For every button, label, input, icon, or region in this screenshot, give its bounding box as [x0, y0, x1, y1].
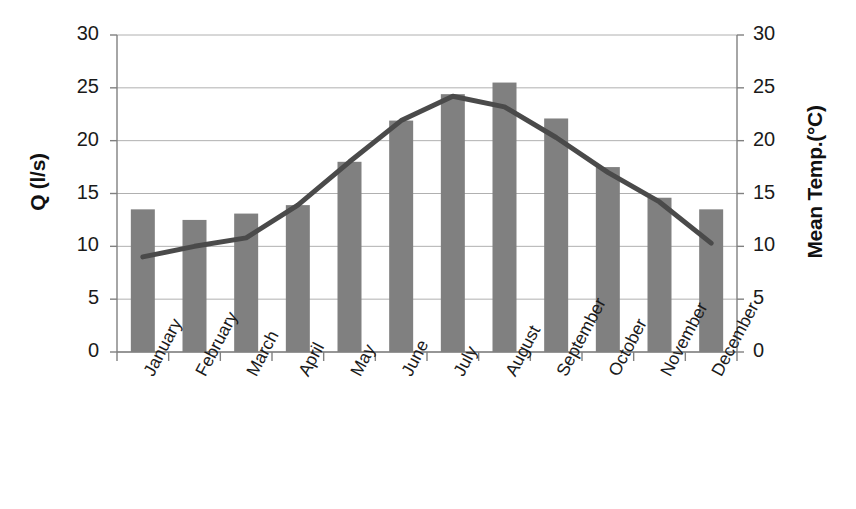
y-axis-left-tick-label: 20: [53, 128, 99, 151]
bar: [493, 83, 517, 352]
line-series: [143, 96, 711, 257]
y-axis-right-tick-label: 0: [753, 339, 799, 362]
chart-figure: Q (l/s) Mean Temp.(°C) 051015202530 0510…: [0, 0, 856, 509]
bar: [699, 209, 723, 352]
bar: [286, 205, 310, 352]
y-axis-left-tick-label: 5: [53, 286, 99, 309]
plot-area: [0, 0, 856, 509]
bar: [544, 118, 568, 352]
bar-series: [131, 83, 723, 352]
y-axis-right-tick-label: 30: [753, 22, 799, 45]
bar: [131, 209, 155, 352]
y-axis-left-tick-label: 15: [53, 181, 99, 204]
y-axis-left-tick-label: 25: [53, 75, 99, 98]
y-axis-left-tick-label: 30: [53, 22, 99, 45]
y-axis-right-tick-label: 20: [753, 128, 799, 151]
y-axis-right-tick-label: 10: [753, 233, 799, 256]
bar: [183, 220, 207, 352]
y-axis-right-tick-label: 15: [753, 181, 799, 204]
temperature-line: [143, 96, 711, 257]
bar: [338, 162, 362, 352]
y-axis-right-tick-label: 25: [753, 75, 799, 98]
y-axis-left-tick-label: 10: [53, 233, 99, 256]
bar: [441, 94, 465, 352]
y-axis-left-tick-label: 0: [53, 339, 99, 362]
bar: [648, 198, 672, 352]
bar: [389, 121, 413, 352]
